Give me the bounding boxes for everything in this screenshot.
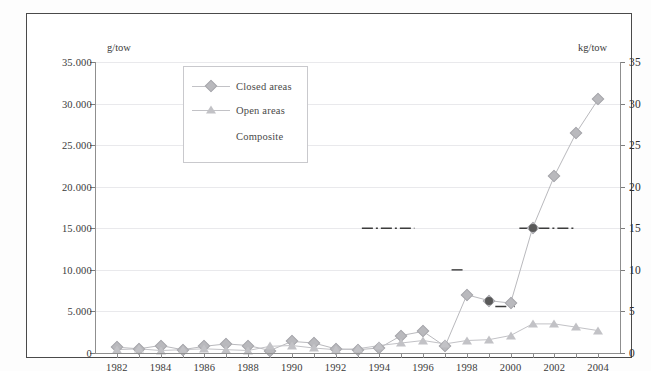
right-tick-label: 20 bbox=[629, 181, 641, 193]
x-tick-label: 1992 bbox=[325, 362, 347, 371]
legend-label-open-areas: Open areas bbox=[236, 105, 285, 116]
triangle-marker-icon bbox=[192, 105, 230, 115]
x-tick-label: 2002 bbox=[543, 362, 565, 371]
x-tick-label: 1986 bbox=[193, 362, 215, 371]
data-point bbox=[287, 341, 297, 349]
left-tick-label: 25.000 bbox=[62, 140, 92, 151]
data-point bbox=[571, 323, 581, 331]
data-point bbox=[199, 344, 209, 352]
diamond-marker-icon bbox=[192, 81, 230, 91]
chart-legend: Closed areas Open areas Composite bbox=[183, 66, 308, 163]
x-tick-label: 2000 bbox=[500, 362, 522, 371]
x-tick-label: 1984 bbox=[150, 362, 172, 371]
x-tick-label: 1994 bbox=[368, 362, 390, 371]
legend-item-open-areas: Open areas bbox=[192, 103, 285, 117]
data-point bbox=[593, 326, 603, 334]
left-tick-label: 0 bbox=[87, 348, 92, 359]
figure-border: g/tow kg/tow 35.00030.00025.00020.00015.… bbox=[26, 13, 632, 358]
left-axis-spine bbox=[95, 62, 96, 353]
data-point bbox=[440, 339, 450, 347]
right-tick-label: 5 bbox=[629, 305, 635, 317]
chart-figure: g/tow kg/tow 35.00030.00025.00020.00015.… bbox=[0, 0, 651, 371]
right-tick-mark bbox=[620, 353, 625, 354]
data-point bbox=[462, 336, 472, 344]
x-tick-label: 1998 bbox=[456, 362, 478, 371]
legend-item-composite: Composite bbox=[192, 129, 283, 143]
data-point-highlight bbox=[485, 297, 493, 305]
legend-label-composite: Composite bbox=[236, 131, 283, 142]
data-point bbox=[374, 341, 384, 349]
left-tick-label: 30.000 bbox=[62, 98, 92, 109]
right-tick-label: 15 bbox=[629, 222, 641, 234]
left-tick-label: 15.000 bbox=[62, 223, 92, 234]
right-tick-mark bbox=[620, 270, 625, 271]
legend-item-closed-areas: Closed areas bbox=[192, 79, 292, 93]
x-tick-label: 1990 bbox=[281, 362, 303, 371]
data-point bbox=[528, 319, 538, 327]
x-axis-spine bbox=[95, 353, 620, 354]
plot-area: 35.00030.00025.00020.00015.00010.0005.00… bbox=[95, 62, 620, 353]
right-tick-label: 35 bbox=[629, 56, 641, 68]
x-tick-label: 1982 bbox=[106, 362, 128, 371]
data-point bbox=[506, 331, 516, 339]
legend-label-closed-areas: Closed areas bbox=[236, 81, 292, 92]
data-point bbox=[265, 342, 275, 350]
x-tick-label: 2004 bbox=[587, 362, 609, 371]
data-point bbox=[484, 335, 494, 343]
right-tick-mark bbox=[620, 62, 625, 63]
right-axis-spine bbox=[620, 62, 621, 353]
data-point bbox=[418, 336, 428, 344]
data-point bbox=[309, 344, 319, 352]
data-point bbox=[353, 344, 363, 352]
right-tick-mark bbox=[620, 104, 625, 105]
right-tick-mark bbox=[620, 311, 625, 312]
series-lines bbox=[95, 62, 620, 353]
data-point bbox=[549, 319, 559, 327]
data-point bbox=[134, 344, 144, 352]
right-axis-unit-label: kg/tow bbox=[578, 42, 607, 53]
right-tick-mark bbox=[620, 228, 625, 229]
right-tick-label: 25 bbox=[629, 139, 641, 151]
left-axis-unit-label: g/tow bbox=[107, 42, 131, 53]
right-tick-label: 0 bbox=[629, 347, 635, 359]
x-tick-label: 1988 bbox=[237, 362, 259, 371]
dash-dot-line-icon bbox=[192, 131, 230, 141]
data-point bbox=[396, 339, 406, 347]
data-point-highlight bbox=[529, 224, 537, 232]
left-tick-label: 35.000 bbox=[62, 57, 92, 68]
right-tick-label: 30 bbox=[629, 98, 641, 110]
left-tick-label: 5.000 bbox=[67, 306, 92, 317]
left-tick-label: 10.000 bbox=[62, 264, 92, 275]
right-tick-label: 10 bbox=[629, 264, 641, 276]
x-tick-label: 1996 bbox=[412, 362, 434, 371]
left-tick-label: 20.000 bbox=[62, 181, 92, 192]
right-tick-mark bbox=[620, 187, 625, 188]
right-tick-mark bbox=[620, 145, 625, 146]
